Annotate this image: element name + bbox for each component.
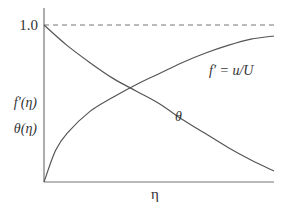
y-axis-label-fprime: f′(η) [14,95,38,111]
series-line-fprime [44,36,274,182]
y-tick-label: 1.0 [19,17,38,33]
series-label-fprime: f′ = u/U [209,63,254,78]
chart: 1.0 f′(η) θ(η) η f′ = u/U θ [0,0,288,206]
series-label-theta: θ [175,109,182,124]
series-line-theta [44,25,274,171]
y-axis-label-theta: θ(η) [14,121,37,137]
x-axis-label: η [151,186,159,202]
